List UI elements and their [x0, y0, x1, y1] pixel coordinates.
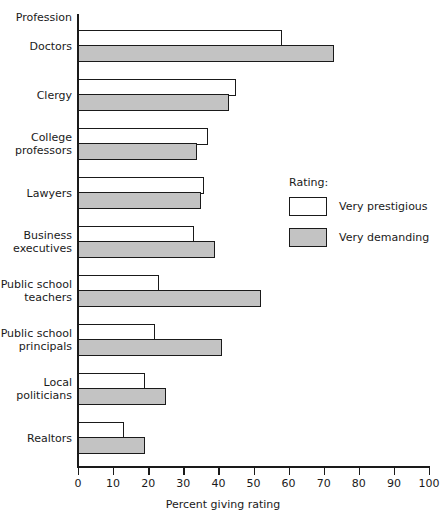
value-axis-tick: [113, 468, 114, 475]
value-axis-tick-label: 50: [234, 477, 274, 490]
bar-group: [78, 373, 429, 407]
bar-group: [78, 422, 429, 456]
value-axis-tick-label: 10: [93, 477, 133, 490]
category-axis-header: Profession: [16, 11, 72, 24]
value-axis-tick-label: 90: [374, 477, 414, 490]
bar-demanding: [78, 143, 197, 160]
bar-demanding: [78, 339, 222, 356]
category-label: Public school principals: [1, 327, 72, 353]
bar-group: [78, 324, 429, 358]
value-axis-tick-label: 20: [128, 477, 168, 490]
value-axis-tick-label: 40: [198, 477, 238, 490]
bar-demanding: [78, 290, 261, 307]
legend: Rating: Very prestigious Very demanding: [289, 176, 439, 259]
value-axis-tick: [254, 468, 255, 475]
value-axis-tick: [429, 468, 430, 475]
bar-demanding: [78, 192, 201, 209]
bar-demanding: [78, 241, 215, 258]
legend-label-prestigious: Very prestigious: [339, 200, 428, 213]
value-axis-tick-label: 80: [339, 477, 379, 490]
value-axis-tick-label: 70: [304, 477, 344, 490]
value-axis-tick: [148, 468, 149, 475]
bar-demanding: [78, 437, 145, 454]
bar-demanding: [78, 94, 229, 111]
bar-demanding: [78, 45, 334, 62]
legend-swatch-prestigious: [289, 197, 327, 216]
value-axis-title: Percent giving rating: [0, 498, 446, 511]
value-axis-tick: [359, 468, 360, 475]
value-axis-tick-label: 0: [58, 477, 98, 490]
bar-group: [78, 275, 429, 309]
value-axis-tick: [394, 468, 395, 475]
legend-swatch-demanding: [289, 228, 327, 247]
category-label: Clergy: [37, 89, 72, 102]
category-label: Business executives: [13, 229, 72, 255]
value-axis-tick: [289, 468, 290, 475]
legend-entry-demanding: Very demanding: [289, 228, 439, 247]
value-axis-tick: [218, 468, 219, 475]
bar-group: [78, 30, 429, 64]
value-axis-tick: [78, 468, 79, 475]
bar-group: [78, 79, 429, 113]
category-label: Public school teachers: [1, 278, 72, 304]
value-axis-tick-label: 30: [163, 477, 203, 490]
category-label: Doctors: [29, 40, 72, 53]
category-label: Lawyers: [27, 187, 72, 200]
horizontal-bar-chart: Profession DoctorsClergyCollege professo…: [0, 0, 446, 520]
bar-demanding: [78, 388, 166, 405]
value-axis-tick-label: 60: [269, 477, 309, 490]
legend-entry-prestigious: Very prestigious: [289, 197, 439, 216]
value-axis-tick: [183, 468, 184, 475]
legend-title: Rating:: [289, 176, 439, 189]
category-label: Realtors: [27, 432, 72, 445]
category-label: Local politicians: [16, 376, 72, 402]
legend-label-demanding: Very demanding: [339, 231, 429, 244]
value-axis-tick: [324, 468, 325, 475]
bar-group: [78, 128, 429, 162]
value-axis-tick-label: 100: [409, 477, 446, 490]
category-label: College professors: [15, 131, 72, 157]
